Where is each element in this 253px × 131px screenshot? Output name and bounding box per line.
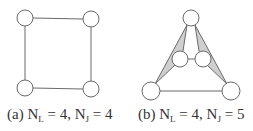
node-a-bottom-left bbox=[17, 80, 33, 96]
caption-a: (a) NL = 4, NJ = 4 bbox=[7, 105, 113, 128]
caption-b-nl-symbol: N bbox=[159, 106, 170, 122]
caption-a-nl-sub: L bbox=[38, 114, 44, 124]
diagram-b bbox=[142, 10, 240, 100]
caption-b-label: (b) bbox=[138, 106, 156, 122]
caption-b-nj-value: = 5 bbox=[225, 106, 245, 122]
node-b-middle-left bbox=[172, 51, 188, 67]
node-b-bottom-left bbox=[142, 82, 160, 100]
caption-a-nj-symbol: N bbox=[75, 106, 86, 122]
caption-a-label: (a) bbox=[7, 106, 24, 122]
node-b-middle-right bbox=[195, 51, 211, 67]
caption-a-nl-value: = 4, bbox=[48, 106, 71, 122]
link-a-bottom bbox=[33, 88, 83, 89]
caption-b-nl-value: = 4, bbox=[179, 106, 202, 122]
caption-b: (b) NL = 4, NJ = 5 bbox=[138, 105, 244, 128]
node-b-top bbox=[183, 10, 199, 26]
caption-a-nj-sub: J bbox=[86, 114, 90, 124]
node-a-top-left bbox=[17, 10, 33, 26]
caption-b-nl-sub: L bbox=[170, 114, 176, 124]
link-a-top bbox=[33, 18, 83, 19]
caption-b-nj-symbol: N bbox=[207, 106, 218, 122]
node-a-top-right bbox=[83, 11, 99, 27]
caption-a-nl-symbol: N bbox=[27, 106, 38, 122]
caption-b-nj-sub: J bbox=[217, 114, 221, 124]
node-a-bottom-right bbox=[83, 81, 99, 97]
node-b-bottom-right bbox=[222, 82, 240, 100]
diagram-a bbox=[17, 10, 99, 97]
caption-a-nj-value: = 4 bbox=[93, 106, 113, 122]
